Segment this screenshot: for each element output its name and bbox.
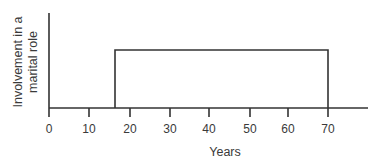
x-tick-label: 70: [321, 122, 335, 136]
y-axis-label-line-1: Involvement in a: [11, 16, 25, 107]
y-axis-label-line-2: marital role: [26, 31, 40, 93]
x-tick-label: 10: [82, 122, 96, 136]
x-tick-label: 20: [123, 122, 137, 136]
x-axis-label: Years: [209, 145, 241, 159]
marital-role-series: [115, 50, 328, 108]
y-axis-label: Involvement in a marital role: [11, 16, 40, 107]
x-tick-label: 60: [281, 122, 295, 136]
chart: 0 10 20 30 40 50 60 70 Years Involvement…: [0, 0, 380, 167]
x-tick-label: 40: [202, 122, 216, 136]
x-tick-label: 30: [163, 122, 177, 136]
x-ticks: [89, 108, 328, 117]
x-tick-label: 50: [243, 122, 257, 136]
x-tick-label: 0: [46, 122, 53, 136]
x-tick-labels: 0 10 20 30 40 50 60 70: [46, 122, 335, 136]
